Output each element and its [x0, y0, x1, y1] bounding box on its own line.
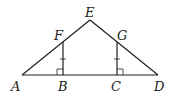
right-angle-mark-C [117, 69, 123, 75]
right-angle-mark-B [57, 69, 63, 75]
label-G: G [117, 28, 127, 43]
label-C: C [111, 79, 121, 94]
label-F: F [53, 28, 64, 43]
label-B: B [57, 79, 68, 94]
label-D: D [153, 79, 165, 94]
label-E: E [84, 5, 95, 20]
geometry-diagram: A B C D E F G [0, 0, 173, 98]
label-A: A [10, 79, 20, 94]
